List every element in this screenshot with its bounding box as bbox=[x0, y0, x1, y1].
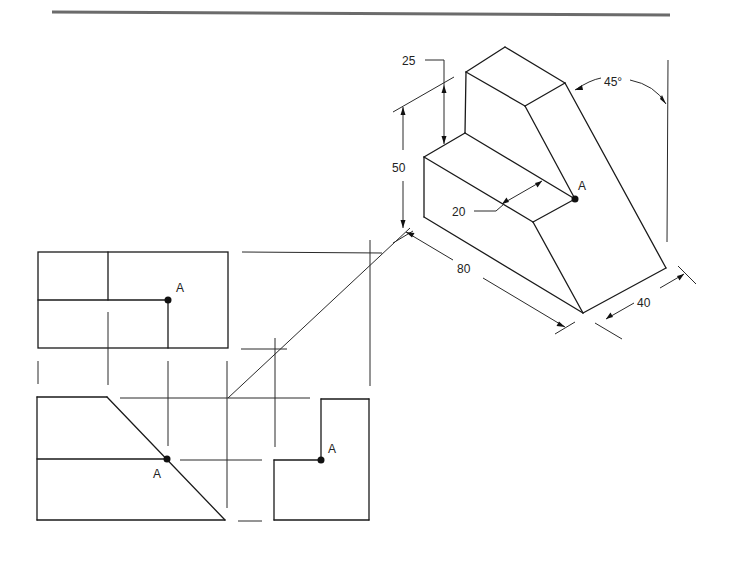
dim-20: 20 bbox=[452, 205, 466, 219]
side-view: A bbox=[274, 399, 369, 520]
point-a-side bbox=[318, 457, 325, 464]
drawing-canvas: A A A bbox=[0, 0, 734, 561]
label-a-top: A bbox=[176, 281, 184, 295]
dim-50: 50 bbox=[392, 161, 406, 175]
label-a-front: A bbox=[153, 467, 161, 481]
point-a-front bbox=[164, 456, 171, 463]
dim-45-angle: 45° bbox=[604, 75, 622, 89]
label-a-side: A bbox=[328, 442, 336, 456]
dim-40: 40 bbox=[637, 296, 651, 310]
point-a-top bbox=[165, 297, 172, 304]
top-view: A bbox=[38, 252, 228, 348]
point-a-iso bbox=[572, 196, 579, 203]
label-a-iso: A bbox=[578, 179, 586, 193]
dim-25: 25 bbox=[402, 54, 416, 68]
dim-80: 80 bbox=[457, 262, 471, 276]
front-view: A bbox=[37, 397, 225, 520]
top-rule bbox=[52, 12, 670, 15]
dimensions: 50 25 20 80 40 45° bbox=[392, 54, 696, 339]
projection-lines bbox=[38, 228, 410, 521]
